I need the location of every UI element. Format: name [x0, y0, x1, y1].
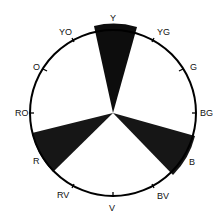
wedge-yellow: [94, 24, 137, 113]
label-r: R: [33, 156, 40, 166]
color-wheel-diagram: Y YG G BG B BV V RV R RO O YO: [0, 0, 222, 217]
label-bv: BV: [157, 191, 169, 201]
wedge-blue: [113, 113, 195, 175]
label-o: O: [33, 62, 40, 72]
label-bg: BG: [200, 108, 213, 118]
wedge-red: [32, 113, 113, 172]
label-g: G: [190, 62, 197, 72]
label-v: V: [109, 203, 115, 213]
label-b: B: [189, 157, 195, 167]
label-ro: RO: [15, 108, 29, 118]
label-y: Y: [110, 13, 116, 23]
label-rv: RV: [57, 190, 69, 200]
label-yg: YG: [157, 27, 170, 37]
label-yo: YO: [59, 27, 72, 37]
